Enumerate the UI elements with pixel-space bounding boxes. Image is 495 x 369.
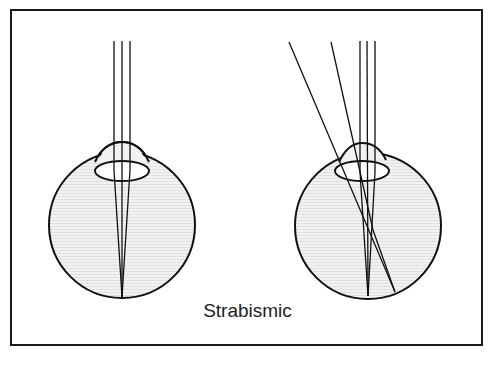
diagram-caption: Strabismic [0, 300, 495, 322]
right-cornea [339, 143, 386, 162]
left-eye [49, 41, 195, 298]
right-eye [289, 41, 441, 299]
